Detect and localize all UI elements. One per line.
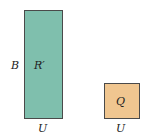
label-q: Q <box>116 96 125 107</box>
label-u-width-r: U <box>38 123 47 134</box>
label-r-prime: R′ <box>34 60 45 71</box>
label-b-height: B <box>11 60 19 71</box>
label-u-width-q: U <box>116 123 125 134</box>
